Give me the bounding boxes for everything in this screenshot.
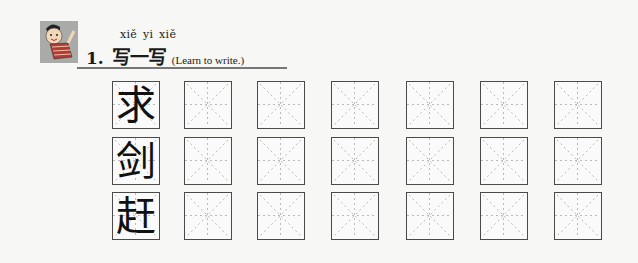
rice-grid-guide-icon: [332, 193, 377, 238]
child-mascot-icon: [40, 21, 78, 63]
rice-grid-guide-icon: [555, 82, 600, 127]
section-heading: 1. 写一写 (Learn to write.): [86, 42, 244, 69]
rice-grid-guide-icon: [407, 193, 452, 238]
practice-writing-cell[interactable]: [406, 81, 454, 129]
model-character: 求: [113, 82, 159, 128]
rice-grid-guide-icon: [555, 193, 600, 238]
practice-writing-cell[interactable]: [554, 81, 602, 129]
practice-writing-cell[interactable]: [331, 81, 379, 129]
rice-grid-guide-icon: [258, 193, 303, 238]
practice-writing-cell[interactable]: [184, 81, 232, 129]
rice-grid-guide-icon: [481, 138, 526, 183]
section-number: 1.: [86, 48, 104, 68]
practice-writing-cell[interactable]: [184, 137, 232, 185]
model-character-cell: 赶: [112, 192, 160, 240]
rice-grid-guide-icon: [185, 82, 230, 127]
rice-grid-guide-icon: [332, 82, 377, 127]
model-character: 剑: [113, 138, 159, 184]
rice-grid-guide-icon: [185, 193, 230, 238]
model-character-cell: 剑: [112, 137, 160, 185]
rice-grid-guide-icon: [407, 138, 452, 183]
heading-underline: [77, 67, 287, 69]
practice-writing-cell[interactable]: [406, 137, 454, 185]
rice-grid-guide-icon: [407, 82, 452, 127]
model-character: 赶: [113, 193, 159, 239]
practice-writing-cell[interactable]: [257, 137, 305, 185]
practice-writing-cell[interactable]: [480, 192, 528, 240]
rice-grid-guide-icon: [258, 138, 303, 183]
rice-grid-guide-icon: [332, 138, 377, 183]
practice-writing-cell[interactable]: [331, 137, 379, 185]
rice-grid-guide-icon: [481, 193, 526, 238]
rice-grid-guide-icon: [258, 82, 303, 127]
practice-writing-cell[interactable]: [480, 81, 528, 129]
section-title: 写一写: [112, 42, 166, 69]
rice-grid-guide-icon: [555, 138, 600, 183]
practice-writing-cell[interactable]: [184, 192, 232, 240]
rice-grid-guide-icon: [185, 138, 230, 183]
mascot-icon-box: [40, 21, 78, 63]
practice-writing-cell[interactable]: [554, 192, 602, 240]
section-subtitle: (Learn to write.): [172, 54, 244, 66]
rice-grid-guide-icon: [481, 82, 526, 127]
practice-writing-cell[interactable]: [257, 81, 305, 129]
pinyin-annotation: xiě yi xiě: [120, 28, 176, 41]
practice-writing-cell[interactable]: [331, 192, 379, 240]
practice-writing-cell[interactable]: [554, 137, 602, 185]
practice-writing-cell[interactable]: [480, 137, 528, 185]
model-character-cell: 求: [112, 81, 160, 129]
practice-writing-cell[interactable]: [257, 192, 305, 240]
practice-writing-cell[interactable]: [406, 192, 454, 240]
